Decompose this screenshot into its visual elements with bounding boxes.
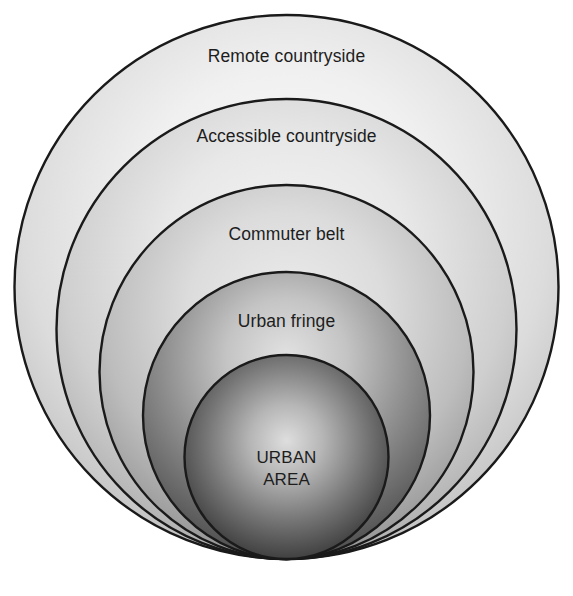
zone-circle-urban-area — [185, 355, 389, 559]
concentric-zones-svg — [0, 0, 573, 596]
clipped-caption-strip — [0, 584, 573, 596]
urban-rural-continuum-diagram: Remote countryside Accessible countrysid… — [0, 0, 573, 596]
